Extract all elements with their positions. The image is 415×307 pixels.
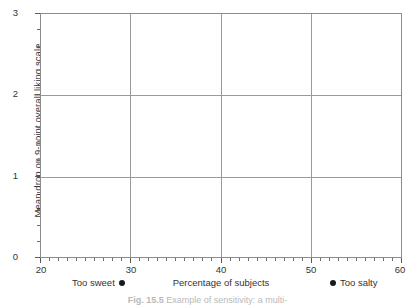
- x-tick-minor: [121, 258, 122, 261]
- x-tick-minor: [76, 258, 77, 261]
- x-tick-minor: [103, 258, 104, 261]
- x-tick-minor: [392, 258, 393, 261]
- y-tick-label: 3: [13, 8, 18, 18]
- x-tick-minor: [275, 258, 276, 261]
- legend-item-too-sweet: Too sweet: [72, 277, 125, 288]
- x-tick-minor: [383, 258, 384, 261]
- figure-container: Mean drop on 9-point overall liking scal…: [0, 0, 415, 307]
- x-tick-major: [40, 258, 41, 263]
- plot-area: [40, 13, 402, 258]
- x-tick-minor: [58, 258, 59, 261]
- x-tick-minor: [338, 258, 339, 261]
- gridline-vertical: [221, 14, 222, 257]
- x-tick-minor: [139, 258, 140, 261]
- x-tick-minor: [184, 258, 185, 261]
- x-tick-minor: [320, 258, 321, 261]
- x-tick-minor: [257, 258, 258, 261]
- y-tick-marks: [24, 13, 40, 258]
- x-tick-minor: [112, 258, 113, 261]
- x-tick-major: [311, 258, 312, 263]
- x-tick-minor: [202, 258, 203, 261]
- x-tick-minor: [284, 258, 285, 261]
- x-tick-minor: [157, 258, 158, 261]
- x-tick-label: 30: [126, 265, 137, 275]
- x-tick-minor: [302, 258, 303, 261]
- filled-circle-icon: [330, 280, 336, 286]
- figure-caption-number: Fig. 15.5: [128, 295, 164, 305]
- x-tick-minor: [356, 258, 357, 261]
- x-tick-minor: [266, 258, 267, 261]
- x-tick-label: 60: [395, 265, 406, 275]
- x-tick-minor: [230, 258, 231, 261]
- x-tick-minor: [67, 258, 68, 261]
- figure-caption-text: Example of sensitivity: a multi-: [166, 295, 287, 305]
- x-tick-minor: [293, 258, 294, 261]
- x-tick-minor: [94, 258, 95, 261]
- x-tick-label: 40: [216, 265, 227, 275]
- x-tick-major: [130, 258, 131, 263]
- filled-circle-icon: [119, 280, 125, 286]
- x-tick-minor: [166, 258, 167, 261]
- figure-caption: Fig. 15.5 Example of sensitivity: a mult…: [0, 295, 415, 307]
- gridline-horizontal: [41, 95, 401, 96]
- x-tick-minor: [148, 258, 149, 261]
- x-tick-major: [221, 258, 222, 263]
- x-tick-minor: [239, 258, 240, 261]
- x-tick-minor: [193, 258, 194, 261]
- x-tick-minor: [85, 258, 86, 261]
- y-tick-label: 0: [13, 252, 18, 262]
- x-tick-minor: [175, 258, 176, 261]
- x-tick-label: 50: [306, 265, 317, 275]
- y-tick-label: 2: [13, 89, 18, 99]
- x-tick-minor: [374, 258, 375, 261]
- x-tick-minor: [347, 258, 348, 261]
- gridline-vertical: [311, 14, 312, 257]
- x-tick-minor: [329, 258, 330, 261]
- x-tick-label-group: 20 30 40 50 60: [40, 265, 402, 277]
- gridline-vertical: [130, 14, 131, 257]
- x-tick-major: [401, 258, 402, 263]
- x-tick-minor: [248, 258, 249, 261]
- legend-label-too-sweet: Too sweet: [72, 277, 115, 288]
- x-tick-minor: [211, 258, 212, 261]
- gridline-horizontal: [41, 177, 401, 178]
- x-tick-minor: [365, 258, 366, 261]
- x-tick-minor: [49, 258, 50, 261]
- y-tick-label: 1: [13, 171, 18, 181]
- legend-item-too-salty: Too salty: [330, 277, 378, 288]
- legend-label-too-salty: Too salty: [340, 277, 378, 288]
- x-tick-label: 20: [36, 265, 47, 275]
